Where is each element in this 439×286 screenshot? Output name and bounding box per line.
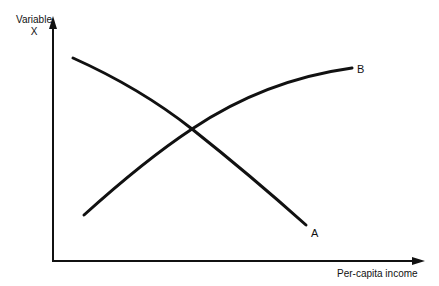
y-axis-label-line1: Variable [14,14,54,26]
curve-a-label: A [311,227,318,239]
diagram-canvas [0,0,439,286]
y-axis [49,16,57,262]
y-axis-label: Variable X [14,14,54,38]
x-axis [52,257,425,265]
curve-b-label: B [357,63,364,75]
curve-a [73,58,306,225]
x-axis-label: Per-capita income [337,268,418,280]
x-axis-arrow-icon [412,257,425,265]
curve-b [84,68,352,215]
y-axis-label-line2: X [14,26,54,38]
